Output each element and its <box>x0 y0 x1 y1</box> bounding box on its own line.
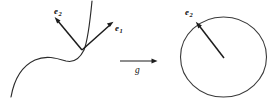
label-e2-left-subscript: 2 <box>58 10 61 17</box>
vector-e1-shaft <box>82 25 111 51</box>
vector-e2-left <box>55 17 82 50</box>
vector-e1 <box>82 22 114 50</box>
vector-e2-left-shaft <box>58 21 83 51</box>
diagram-canvas <box>0 0 272 102</box>
label-e1-left: e1 <box>115 24 122 33</box>
vector-e2-right <box>196 22 224 58</box>
map-arrow-head <box>152 59 158 64</box>
label-e2-right: e2 <box>185 8 192 17</box>
smooth-curve <box>11 1 92 97</box>
frame-vectors-left <box>55 17 114 50</box>
label-e2-left: e2 <box>54 7 61 16</box>
map-arrow-group <box>120 59 158 64</box>
curve-group <box>11 1 92 97</box>
label-map-g: g <box>135 66 140 76</box>
label-e1-left-subscript: 1 <box>119 27 122 34</box>
vector-e2-right-shaft <box>199 26 224 59</box>
figure-root: e2 e1 g e2 <box>0 0 272 102</box>
label-e2-right-subscript: 2 <box>189 11 192 18</box>
